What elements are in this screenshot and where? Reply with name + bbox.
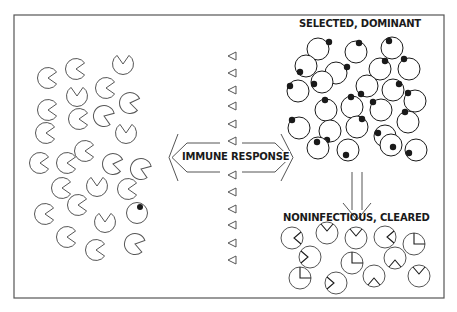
virus-variant-icon [95,213,116,232]
epitope-spot-icon [326,39,332,45]
epitope-spot-icon [348,94,354,100]
cleared-virus-icon [299,246,321,268]
epitope-spot-icon [390,144,396,150]
virus-variant-icon [56,227,75,248]
virus-variant-icon [91,103,116,129]
virus-variant-icon [35,123,54,144]
antibody-icon [228,256,236,264]
virus-variant-icon [68,109,87,130]
virus-variant-icon [34,204,53,225]
epitope-spot-icon [370,99,376,105]
virus-variant-icon [37,100,56,121]
epitope-spot-icon [322,97,328,103]
antibody-icon [228,221,236,229]
virus-variant-icon [67,195,86,216]
cleared-virus-icon [325,272,347,294]
left-arrowhead-icon [169,134,178,181]
epitope-spot-icon [137,204,143,210]
virus-population-cleared [281,222,430,294]
antibody-icon [228,137,236,145]
epitope-spot-icon [297,69,303,75]
epitope-spot-icon [405,90,411,96]
epitope-spot-icon [396,81,402,87]
virus-variant-icon [122,231,146,256]
label-noninfectious-cleared: NONINFECTIOUS, CLEARED [283,212,430,223]
virus-variant-icon [87,177,108,196]
virus-variant-icon [118,91,140,115]
virus-population-dominant [287,37,427,161]
epitope-spot-icon [358,91,364,97]
virus-variant-icon [113,55,134,74]
dominant-virus-icon [345,41,367,63]
epitope-spot-icon [386,38,392,44]
cleared-virus-icon [408,265,430,287]
epitope-spot-icon [356,40,362,46]
epitope-spot-icon [382,58,388,64]
antibody-icon [228,52,236,60]
cleared-virus-icon [345,227,367,249]
epitope-spot-icon [402,109,408,115]
label-selected-dominant: SELECTED, DOMINANT [299,18,421,29]
cleared-virus-icon [363,265,385,287]
virus-variant-icon [116,124,137,143]
dominant-virus-icon [398,58,420,80]
epitope-spot-icon [406,150,412,156]
antibody-icon [228,120,236,128]
virus-variant-icon [51,178,70,199]
virus-variant-icon [67,87,88,106]
epitope-spot-icon [311,81,317,87]
epitope-spot-icon [375,130,381,136]
virus-variant-icon [29,153,48,174]
antibody-icon [228,188,236,196]
antibody-icon [228,69,236,77]
label-immune-response: IMMUNE RESPONSE [181,151,290,162]
virus-variant-icon [101,152,123,176]
antibody-icon [228,102,236,110]
cleared-virus-icon [316,222,338,244]
virus-variant-icon [95,78,114,99]
virus-variant-icon [74,141,93,162]
virus-variant-icon [56,153,75,174]
cleared-virus-icon [374,226,396,248]
virus-spotted-icon [127,203,148,224]
virus-variant-icon [65,59,84,80]
epitope-spot-icon [289,117,295,123]
virus-variant-icon [117,179,136,200]
epitope-spot-icon [401,56,407,62]
epitope-spot-icon [343,152,349,158]
dominant-virus-icon [397,111,419,133]
cleared-virus-icon [281,227,303,249]
antibody-icon [228,205,236,213]
virus-variant-icon [37,68,56,89]
virus-population-diverse [29,55,152,260]
epitope-spot-icon [344,64,350,70]
antibody-icon [228,171,236,179]
epitope-spot-icon [314,139,320,145]
epitope-spot-icon [287,83,293,89]
virus-variant-icon [85,240,104,261]
virus-variant-icon [128,156,153,182]
dominant-virus-icon [337,139,359,161]
epitope-spot-icon [359,116,365,122]
antibody-icon [228,86,236,94]
cleared-virus-icon [384,247,406,269]
antibody-icon [228,239,236,247]
